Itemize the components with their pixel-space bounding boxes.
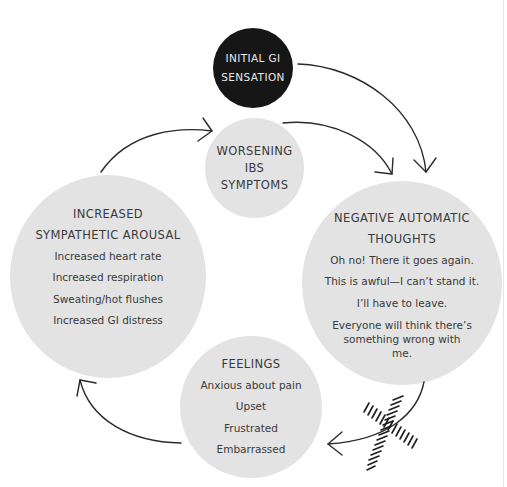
node-heading-line: FEELINGS: [222, 354, 281, 375]
node-heading-line: SENSATION: [221, 68, 285, 87]
page-gutter-line: [503, 0, 504, 487]
node-list-item: Everyone will think there’s something wr…: [332, 318, 472, 360]
crossed-out-x-icon: [364, 396, 417, 470]
node-heading-line: SYMPATHETIC AROUSAL: [35, 225, 180, 246]
arrow-arousal-to-worsening-icon: [101, 118, 212, 172]
arrow-feelings-to-arousal-icon: [77, 380, 181, 443]
node-list-item: Increased respiration: [53, 267, 164, 289]
node-list-item: Anxious about pain: [200, 375, 301, 397]
node-feelings: FEELINGS Anxious about pain Upset Frustr…: [180, 336, 322, 478]
node-list-item: Sweating/hot flushes: [53, 289, 163, 311]
node-heading-line: NEGATIVE AUTOMATIC: [334, 208, 470, 229]
node-list-item: Oh no! There it goes again.: [330, 250, 473, 272]
node-list-item: This is awful—I can’t stand it.: [325, 271, 479, 293]
node-list-item: I’ll have to leave.: [357, 293, 447, 315]
node-heading-line: IBS: [245, 160, 265, 177]
node-list-item: Increased GI distress: [53, 310, 163, 332]
arrow-thoughts-to-feelings-icon: [328, 382, 424, 455]
node-increased-sympathetic-arousal: INCREASED SYMPATHETIC AROUSAL Increased …: [10, 175, 206, 378]
node-heading-line: INCREASED: [73, 204, 143, 225]
node-list-item: Embarrassed: [217, 439, 286, 461]
node-worsening-ibs-symptoms: WORSENING IBS SYMPTOMS: [205, 118, 304, 218]
node-list-item: Upset: [236, 396, 266, 418]
node-negative-automatic-thoughts: NEGATIVE AUTOMATIC THOUGHTS Oh no! There…: [302, 181, 502, 385]
node-heading-line: INITIAL GI: [225, 49, 280, 68]
node-heading-line: WORSENING: [216, 143, 292, 160]
node-list-item: Increased heart rate: [54, 246, 161, 268]
arrow-initial-to-thoughts-icon: [298, 64, 436, 172]
node-list-item: Frustrated: [224, 418, 278, 440]
node-initial-gi-sensation: INITIAL GI SENSATION: [213, 28, 293, 108]
node-heading-line: SYMPTOMS: [221, 177, 289, 194]
node-heading-line: THOUGHTS: [368, 229, 436, 250]
